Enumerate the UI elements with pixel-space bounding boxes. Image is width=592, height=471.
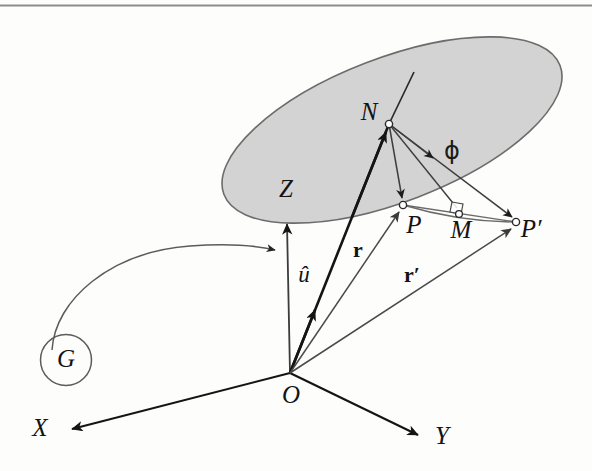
label-group: G [57,345,75,372]
label-axis-x: X [31,414,49,441]
label-angle-phi: ϕ [444,137,460,165]
label-point-p: P [405,211,421,238]
label-origin: O [282,381,300,408]
group-action-arrow [52,245,275,350]
coordinate-axes [72,224,418,435]
label-axis-z: Z [279,175,294,202]
label-point-n: N [360,98,379,125]
axis-y-line [290,373,418,435]
label-unit-vector: û [298,262,310,287]
point-n-marker [385,120,392,127]
axis-z-line [287,224,290,373]
axis-x-line [72,373,290,429]
label-point-p-prime: P′ [520,215,542,242]
vector-r-prime [290,229,511,373]
point-p-marker [399,201,406,208]
label-vector-r-prime: r′ [404,262,420,287]
label-point-m: M [450,216,473,243]
geometry-diagram: X Y Z O N P M P′ G û r r′ ϕ [0,0,592,471]
figure-canvas: X Y Z O N P M P′ G û r r′ ϕ [0,0,592,471]
label-vector-r: r [353,237,363,262]
point-p-prime-marker [512,218,519,225]
label-axis-y: Y [435,422,452,449]
